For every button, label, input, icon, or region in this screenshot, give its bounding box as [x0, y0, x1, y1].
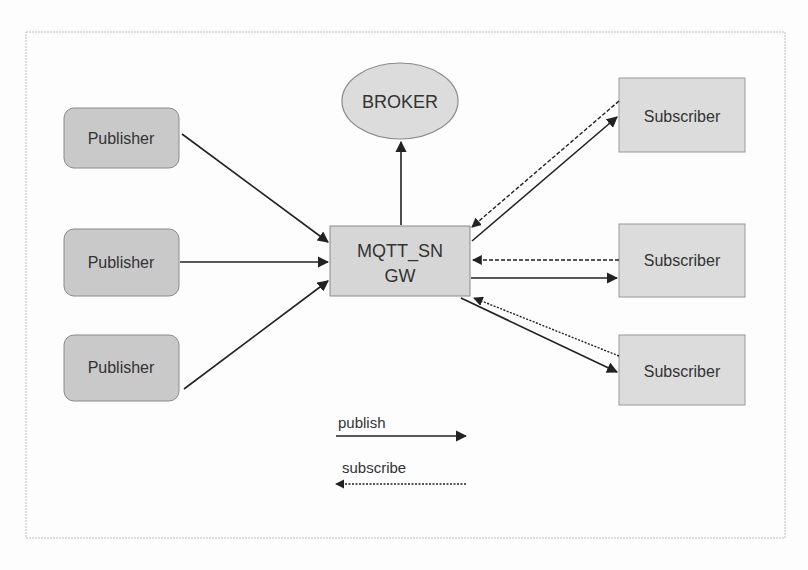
broker-label: BROKER: [362, 92, 438, 112]
gateway-label-line1: MQTT_SN: [357, 241, 443, 262]
subscriber-node-3: Subscriber: [619, 335, 745, 405]
publisher-node-1: Publisher: [64, 108, 179, 168]
subscriber-label: Subscriber: [644, 252, 721, 269]
publisher-node-3: Publisher: [64, 335, 179, 401]
subscriber-node-2: Subscriber: [619, 224, 745, 297]
gateway-label-line2: GW: [385, 266, 416, 286]
publisher-label: Publisher: [88, 130, 155, 147]
legend: publish subscribe: [336, 414, 466, 484]
legend-publish-label: publish: [338, 414, 386, 431]
publish-arrow-publisher1-gateway: [182, 134, 328, 242]
subscriber-label: Subscriber: [644, 108, 721, 125]
broker-node: BROKER: [342, 63, 458, 139]
publish-arrow-gateway-subscriber1: [472, 117, 617, 241]
publisher-node-2: Publisher: [64, 229, 179, 296]
subscribe-arrow-subscriber1-gateway: [472, 101, 619, 227]
gateway-node: MQTT_SN GW: [330, 226, 470, 296]
subscriber-label: Subscriber: [644, 363, 721, 380]
publish-arrow-publisher3-gateway: [184, 281, 328, 389]
diagram-canvas: BROKER MQTT_SN GW Publisher Publisher Pu…: [0, 0, 808, 570]
subscriber-node-1: Subscriber: [619, 78, 745, 152]
publisher-label: Publisher: [88, 359, 155, 376]
publish-arrow-gateway-subscriber3: [461, 298, 617, 372]
legend-subscribe-label: subscribe: [342, 459, 406, 476]
subscribe-arrow-subscriber3-gateway: [474, 298, 619, 356]
publisher-label: Publisher: [88, 254, 155, 271]
